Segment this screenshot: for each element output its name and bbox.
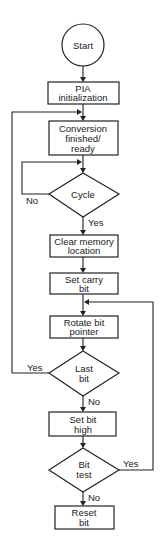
arrow-head bbox=[80, 116, 86, 121]
node-label-line: pointer bbox=[69, 326, 98, 337]
node-bit-test: Bit test bbox=[49, 448, 119, 492]
node-pia-initialization: PIA initialization bbox=[48, 82, 119, 104]
arrow-head bbox=[80, 268, 86, 273]
edge-label-cycle-no: No bbox=[26, 195, 38, 206]
arrow-head bbox=[80, 443, 86, 448]
arrow-head bbox=[77, 109, 82, 115]
arrow-head bbox=[80, 346, 86, 351]
node-reset-bit: Reset bit bbox=[55, 506, 114, 529]
node-conversion-finished: Conversion finished/ ready bbox=[49, 121, 118, 155]
arrow-head bbox=[77, 159, 82, 165]
arrow-head bbox=[84, 299, 89, 305]
edge-label-bittest-no: No bbox=[88, 492, 100, 503]
flowchart: Start PIA initialization Conversion fini… bbox=[0, 0, 162, 547]
node-label-line: high bbox=[74, 424, 92, 435]
node-label-line: location bbox=[68, 245, 101, 256]
node-label-line: Cycle bbox=[71, 189, 95, 200]
node-set-bit-high: Set bit high bbox=[49, 412, 116, 436]
arrow-head bbox=[80, 311, 86, 316]
node-label-line: ready bbox=[71, 143, 95, 154]
node-label-line: test bbox=[76, 469, 92, 480]
arrow-head bbox=[80, 501, 86, 506]
node-label-line: bit bbox=[79, 373, 89, 384]
arrow-head bbox=[80, 230, 86, 235]
node-set-carry: Set carry bit bbox=[50, 273, 118, 294]
edge-label-lastbit-yes: Yes bbox=[27, 362, 43, 373]
node-label-line: bit bbox=[79, 517, 89, 528]
node-clear-memory: Clear memory location bbox=[50, 235, 118, 257]
start-label: Start bbox=[73, 40, 93, 51]
arrow-head bbox=[80, 407, 86, 412]
node-label-line: initialization bbox=[58, 92, 107, 103]
node-cycle: Cycle bbox=[49, 173, 119, 217]
arrow-head bbox=[80, 77, 86, 82]
edge-label-lastbit-no: No bbox=[88, 396, 100, 407]
node-label-line: bit bbox=[79, 283, 89, 294]
node-start: Start bbox=[62, 24, 104, 66]
edge-label-cycle-yes: Yes bbox=[88, 217, 104, 228]
node-last-bit: Last bit bbox=[49, 351, 119, 396]
edge-label-bittest-yes: Yes bbox=[123, 458, 139, 469]
arrow-head bbox=[80, 168, 86, 173]
node-rotate-bit-pointer: Rotate bit pointer bbox=[50, 316, 118, 338]
